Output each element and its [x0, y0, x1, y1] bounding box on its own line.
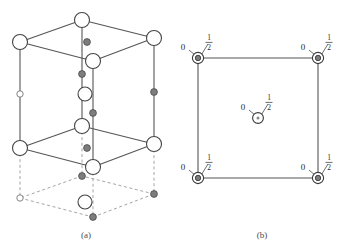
- atom-small-right-edge-mid: [151, 89, 158, 96]
- panel-a-caption: (a): [81, 230, 91, 240]
- crystal-structure-figure: (a) 0 1 2: [0, 0, 343, 251]
- atom-small-back-edge-mid: [79, 71, 86, 78]
- atom-small-front-edge-mid: [90, 110, 97, 117]
- label-half-denominator-top-right: 2: [327, 43, 331, 52]
- panel-b-corner-bottom-left: 0 1 2: [181, 153, 213, 184]
- top-face-edge-back-left: [20, 20, 82, 42]
- atom-small-mid-face-interior: [84, 145, 91, 152]
- atom-corner-inner-top-left: [195, 55, 200, 60]
- figure-canvas: (a) 0 1 2: [0, 0, 343, 251]
- atom-large-top-right: [147, 31, 162, 46]
- atom-corner-inner-top-right: [315, 55, 320, 60]
- label-half-top-left: 1 2: [206, 33, 213, 52]
- mid-face-edge-front-right: [93, 144, 154, 167]
- atom-open-lower-left-corner: [17, 195, 23, 201]
- label-zero-top-left: 0: [181, 42, 186, 52]
- label-half-numerator-center: 1: [267, 93, 271, 102]
- atom-open-left-edge-mid: [17, 91, 23, 97]
- label-zero-bottom-left: 0: [181, 162, 186, 172]
- top-face-edge-front-right: [93, 38, 154, 61]
- bottom-face-edge-back-left: [20, 176, 82, 198]
- label-zero-bottom-right: 0: [301, 162, 306, 172]
- atom-corner-inner-bottom-left: [195, 175, 200, 180]
- label-half-bottom-left: 1 2: [206, 153, 213, 172]
- atom-corner-inner-bottom-right: [315, 175, 320, 180]
- atom-small-lower-back-corner: [79, 173, 86, 180]
- label-half-numerator-top-right: 1: [327, 33, 331, 42]
- label-half-denominator-bottom-left: 2: [207, 163, 211, 172]
- atom-large-mid-back: [75, 119, 90, 134]
- atom-small-lower-front-corner: [90, 214, 97, 221]
- panel-b-caption: (b): [257, 230, 268, 240]
- panel-b-center-atom-group: 0 1 2: [241, 93, 273, 123]
- label-half-numerator-top-left: 1: [207, 33, 211, 42]
- label-half-center: 1 2: [266, 93, 273, 112]
- label-half-denominator-top-left: 2: [207, 43, 211, 52]
- panel-b-corner-bottom-right: 0 1 2: [301, 153, 333, 184]
- atom-large-interior-mid: [78, 87, 92, 101]
- bottom-face-edge-front-right: [93, 194, 154, 217]
- label-half-denominator-bottom-right: 2: [327, 163, 331, 172]
- panel-a: (a): [13, 13, 162, 241]
- atom-large-top-left: [13, 35, 28, 50]
- label-zero-center: 0: [241, 102, 246, 112]
- atom-large-mid-right: [147, 137, 162, 152]
- mid-face-edge-back-left: [20, 126, 82, 148]
- panel-b-corner-top-left: 0 1 2: [181, 33, 213, 64]
- atom-large-mid-left: [13, 141, 28, 156]
- atom-small-top-face-interior: [84, 39, 91, 46]
- label-zero-top-right: 0: [301, 42, 306, 52]
- atom-large-interior-lower: [78, 195, 92, 209]
- label-half-bottom-right: 1 2: [326, 153, 333, 172]
- atom-center-inner-dot: [257, 117, 260, 120]
- label-half-denominator-center: 2: [267, 103, 271, 112]
- atom-large-top-front: [86, 54, 101, 69]
- label-half-numerator-bottom-right: 1: [327, 153, 331, 162]
- panel-b: 0 1 2 0 1 2: [181, 33, 333, 240]
- label-half-numerator-bottom-left: 1: [207, 153, 211, 162]
- label-half-top-right: 1 2: [326, 33, 333, 52]
- atom-small-lower-right-corner: [151, 191, 158, 198]
- atom-large-mid-front: [86, 160, 101, 175]
- panel-b-corner-top-right: 0 1 2: [301, 33, 333, 64]
- top-face-edge-right-back: [82, 20, 154, 38]
- atom-large-top-back: [75, 13, 90, 28]
